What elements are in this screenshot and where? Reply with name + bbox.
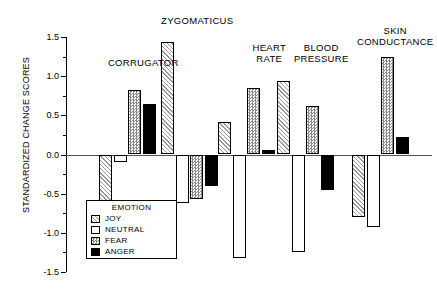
y-tick-major: [61, 272, 66, 273]
y-tick-label: -1.5: [31, 268, 59, 277]
bar: [321, 155, 334, 190]
legend-item: JOY: [91, 213, 172, 224]
y-tick-label: -1.0: [31, 228, 59, 237]
legend-swatch-icon: [91, 226, 100, 234]
bar: [262, 150, 275, 155]
legend-item-label: FEAR: [105, 236, 128, 245]
bar: [367, 155, 380, 228]
y-tick-minor: [63, 57, 66, 58]
bar: [205, 155, 218, 186]
y-tick-major: [61, 194, 66, 195]
legend-title: EMOTION: [91, 203, 172, 212]
y-axis-title: STANDARDIZED CHANGE SCORES: [21, 10, 31, 260]
y-tick-label: -0.5: [31, 189, 59, 198]
group-label: CORRUGATOR: [86, 57, 201, 68]
y-tick-minor: [63, 213, 66, 214]
y-tick-minor: [63, 96, 66, 97]
legend-swatch-icon: [91, 215, 100, 223]
y-tick-label: 0.0: [31, 150, 59, 159]
bar: [277, 81, 290, 155]
bar: [352, 155, 365, 218]
y-tick-major: [61, 155, 66, 156]
legend-item: FEAR: [91, 235, 172, 246]
bar: [128, 90, 141, 154]
y-tick-label: 1.5: [31, 33, 59, 42]
bar: [218, 122, 231, 155]
bar: [143, 104, 156, 154]
group-label: SKIN CONDUCTANCE: [338, 25, 437, 47]
bar: [381, 57, 394, 155]
y-tick-major: [61, 37, 66, 38]
y-tick-major: [61, 76, 66, 77]
bar: [233, 155, 246, 258]
legend-swatch-icon: [91, 237, 100, 245]
y-tick-minor: [63, 135, 66, 136]
bar: [306, 106, 319, 155]
legend-item-label: ANGER: [105, 247, 135, 256]
bar: [396, 137, 409, 154]
legend-item-label: JOY: [105, 214, 121, 223]
bar: [190, 155, 203, 200]
y-tick-minor: [63, 252, 66, 253]
y-tick-label: 1.0: [31, 72, 59, 81]
y-tick-label: 0.5: [31, 111, 59, 120]
legend-rows: JOYNEUTRALFEARANGER: [91, 213, 172, 257]
y-tick-major: [61, 115, 66, 116]
bar: [114, 155, 127, 162]
legend-item-label: NEUTRAL: [105, 225, 144, 234]
bar: [247, 88, 260, 155]
y-tick-minor: [63, 174, 66, 175]
legend-item: ANGER: [91, 246, 172, 257]
legend: EMOTION JOYNEUTRALFEARANGER: [86, 200, 177, 259]
legend-swatch-icon: [91, 248, 100, 256]
group-label: ZYGOMATICUS: [140, 15, 255, 26]
bar: [176, 155, 189, 204]
bar-chart: STANDARDIZED CHANGE SCORES 1.51.00.50.0-…: [0, 0, 437, 289]
legend-item: NEUTRAL: [91, 224, 172, 235]
bar: [292, 155, 305, 253]
y-tick-major: [61, 233, 66, 234]
